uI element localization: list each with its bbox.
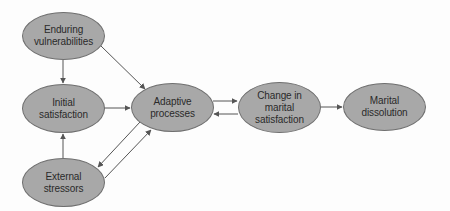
node-adaptive-processes: Adaptive processes — [131, 83, 214, 132]
node-label: Marital dissolution — [361, 95, 407, 119]
node-change-in-marital-satisfaction: Change in marital satisfaction — [238, 82, 321, 133]
node-label: Initial satisfaction — [39, 97, 88, 121]
node-marital-dissolution: Marital dissolution — [343, 83, 426, 131]
edge-enduring-to-adaptive — [101, 46, 145, 89]
edge-adaptive-to-external — [98, 122, 140, 167]
node-label: Enduring vulnerabilities — [34, 24, 93, 48]
node-label: Adaptive processes — [150, 96, 195, 120]
diagram-canvas: Enduring vulnerabilities Initial satisfa… — [0, 0, 450, 211]
node-initial-satisfaction: Initial satisfaction — [22, 84, 105, 133]
node-enduring-vulnerabilities: Enduring vulnerabilities — [22, 12, 105, 60]
node-external-stressors: External stressors — [22, 158, 105, 207]
node-label: External stressors — [44, 171, 84, 195]
node-label: Change in marital satisfaction — [255, 90, 304, 126]
edge-external-to-adaptive — [105, 130, 151, 178]
